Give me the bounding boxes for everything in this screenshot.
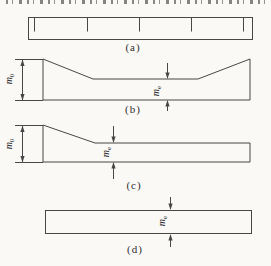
inner-depth-dimension (168, 197, 172, 247)
arrowhead-down (165, 73, 169, 80)
dim-label-c-me: me (101, 147, 113, 157)
dim-base: m (3, 77, 14, 84)
dim-sub: e (105, 147, 113, 150)
thin-bar-outline (46, 211, 252, 234)
outer-depth-dimension (15, 60, 43, 101)
dim-sub: 0 (8, 139, 16, 143)
arrowhead-down (168, 204, 172, 211)
dim-label-b-me: me (151, 86, 163, 96)
arrowhead-up (20, 60, 24, 67)
figure-linework (0, 0, 271, 266)
panel-c-drawing (15, 125, 250, 179)
dim-sub: e (155, 86, 163, 89)
dim-label-d-me: me (157, 216, 169, 226)
caption-c: (c) (126, 179, 141, 191)
dim-base: m (100, 150, 111, 157)
caption-b: (b) (125, 103, 141, 115)
arrowhead-up (165, 100, 169, 107)
arrowhead-down (20, 94, 24, 101)
thinned-end-profile (43, 125, 250, 162)
arrowhead-down (20, 156, 24, 163)
arrowhead-down (111, 137, 115, 144)
panel-a-drawing (29, 18, 253, 40)
caption-d: (d) (127, 243, 143, 255)
bar-outline (29, 18, 253, 40)
dim-base: m (3, 142, 14, 149)
inner-depth-dimension (165, 63, 169, 111)
arrowhead-up (168, 234, 172, 241)
dim-base: m (150, 89, 161, 96)
caption-a: (a) (125, 41, 140, 53)
scanned-figure-page: (a) (b) (c) (d) m0 me m0 me me (0, 0, 271, 266)
dim-label-c-m0: m0 (4, 139, 16, 150)
outer-depth-dimension (15, 126, 43, 163)
dim-sub: 0 (8, 74, 16, 78)
dim-sub: e (161, 216, 169, 219)
dim-base: m (156, 219, 167, 226)
segment-ticks (35, 18, 244, 32)
arrowhead-up (111, 162, 115, 169)
arrowhead-up (20, 126, 24, 133)
dim-label-b-m0: m0 (4, 74, 16, 85)
panel-d-drawing (46, 197, 252, 247)
thinned-middle-profile (43, 59, 250, 100)
